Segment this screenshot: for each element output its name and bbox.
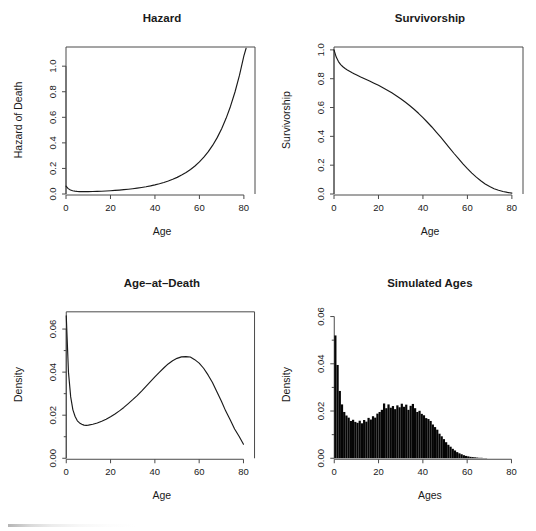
y-tick-label: 0.2 — [47, 162, 58, 175]
panel-age-at-death-plot: 0.000.020.040.06020406080 — [47, 312, 254, 477]
histogram-bar — [367, 418, 369, 458]
y-tick-label: 0.02 — [47, 406, 58, 424]
histogram-bar — [467, 456, 469, 458]
histogram-bar — [472, 457, 474, 458]
histogram-bar — [447, 445, 449, 458]
histogram-bar — [454, 450, 456, 458]
histogram-bar — [354, 422, 356, 458]
histogram-bar — [387, 404, 389, 458]
x-tick-label: 20 — [105, 202, 116, 213]
histogram-bar — [396, 405, 398, 458]
histogram-bar — [425, 418, 427, 458]
y-tick-label: 0.02 — [315, 402, 326, 420]
histogram-bar — [416, 412, 418, 458]
histogram-bar — [434, 427, 436, 458]
histogram-bar — [383, 403, 385, 458]
panel-simulated-ages-plot: 0.000.020.040.06020406080 — [315, 307, 516, 477]
y-tick-label: 0.04 — [47, 363, 58, 381]
x-tick-label: 40 — [418, 466, 429, 477]
x-tick-label: 40 — [418, 202, 429, 213]
panel-age-at-death-ylabel: Density — [13, 366, 24, 402]
figure-canvas: Hazard 0.00.20.40.60.81.0020406080 Age H… — [0, 0, 536, 531]
panel-survivorship-xlabel: Age — [421, 225, 440, 237]
histogram-bar — [359, 421, 361, 459]
histogram-bar — [469, 457, 471, 458]
x-tick-label: 80 — [507, 202, 518, 213]
x-tick-label: 0 — [331, 202, 336, 213]
x-tick-label: 0 — [332, 466, 337, 477]
histogram-bar — [421, 414, 423, 458]
histogram-bar — [403, 407, 405, 458]
y-tick-label: 0.8 — [47, 85, 58, 98]
x-tick-label: 60 — [194, 466, 205, 477]
y-tick-label: 0.00 — [47, 449, 58, 467]
histogram-bar — [461, 454, 463, 458]
histogram-bar — [476, 458, 478, 459]
histogram-bar — [394, 409, 396, 458]
data-curve — [66, 316, 243, 445]
histogram-bar — [441, 436, 443, 458]
histogram-bar — [410, 406, 412, 458]
x-tick-label: 20 — [373, 202, 384, 213]
histogram-bar — [398, 407, 400, 458]
x-tick-label: 80 — [506, 466, 517, 477]
histogram-bar — [456, 452, 458, 458]
x-tick-label: 60 — [462, 466, 473, 477]
histogram-bar — [401, 404, 403, 459]
data-curve — [66, 48, 246, 191]
y-tick-label: 0.0 — [315, 187, 326, 200]
histogram-bar — [350, 421, 352, 458]
y-tick-label: 0.6 — [47, 111, 58, 124]
y-tick-label: 0.0 — [47, 187, 58, 200]
histogram-bar — [361, 423, 363, 458]
panel-survivorship-title: Survivorship — [395, 12, 465, 24]
panel-simulated-ages: Simulated Ages 0.000.020.040.06020406080… — [268, 265, 536, 530]
histogram-bar — [365, 422, 367, 459]
histogram-bar — [381, 410, 383, 458]
panel-age-at-death-svg: Age–at–Death 0.000.020.040.06020406080 A… — [0, 265, 268, 530]
x-tick-label: 20 — [373, 466, 384, 477]
x-tick-label: 0 — [63, 202, 68, 213]
x-tick-label: 80 — [239, 202, 250, 213]
histogram-bar — [412, 404, 414, 458]
histogram-bar — [343, 412, 345, 458]
histogram-bar — [430, 421, 432, 458]
y-tick-label: 0.2 — [315, 159, 326, 172]
histogram-bar — [392, 406, 394, 458]
histogram-bar — [334, 335, 336, 458]
x-tick-label: 0 — [64, 466, 69, 477]
y-tick-label: 0.04 — [315, 355, 326, 373]
histogram-bar — [445, 442, 447, 458]
histogram-bar — [370, 420, 372, 459]
histogram-bar — [443, 439, 445, 458]
histogram-bar — [463, 455, 465, 458]
panel-hazard: Hazard 0.00.20.40.60.81.0020406080 Age H… — [0, 0, 268, 265]
histogram-bar — [427, 419, 429, 458]
panel-hazard-title: Hazard — [143, 12, 181, 24]
histogram-bar — [449, 447, 451, 459]
histogram-bar — [414, 408, 416, 458]
panel-simulated-ages-ylabel: Density — [281, 366, 292, 402]
histogram-bar — [356, 423, 358, 458]
histogram-bar — [465, 456, 467, 458]
histogram-bar — [341, 404, 343, 458]
histogram-bar — [432, 424, 434, 458]
histogram-bar — [407, 410, 409, 458]
histogram-bar — [363, 420, 365, 458]
y-tick-label: 1.0 — [315, 43, 326, 56]
histogram-bar — [390, 408, 392, 459]
x-tick-label: 80 — [238, 466, 249, 477]
histogram-bar — [405, 405, 407, 459]
panel-simulated-ages-xlabel: Ages — [418, 490, 442, 501]
panel-hazard-plot: 0.00.20.40.60.81.0020406080 — [47, 47, 255, 213]
x-tick-label: 60 — [462, 202, 473, 213]
panel-survivorship-ylabel: Survivorship — [280, 91, 292, 149]
histogram-bar — [345, 416, 347, 459]
panel-hazard-ylabel: Hazard of Death — [12, 82, 24, 159]
panel-simulated-ages-title: Simulated Ages — [387, 277, 472, 289]
x-tick-label: 20 — [105, 466, 116, 477]
y-tick-label: 0.6 — [315, 101, 326, 114]
histogram-bar — [458, 453, 460, 458]
data-curve — [334, 50, 512, 193]
histogram-bar — [352, 420, 354, 459]
